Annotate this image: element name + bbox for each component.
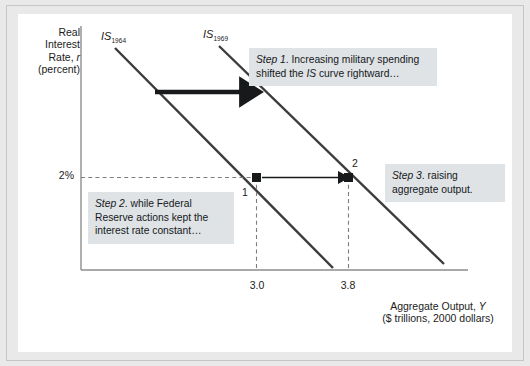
curve-label-is-1964: IS1964 bbox=[101, 30, 126, 43]
x-tick-label-3-8: 3.8 bbox=[331, 279, 365, 291]
y-axis-title-line2: Interest bbox=[45, 38, 80, 50]
curve-label-is-1969: IS1969 bbox=[203, 28, 228, 41]
x-tick-label-3-0: 3.0 bbox=[240, 279, 274, 291]
y-axis-variable-r: r bbox=[77, 51, 81, 63]
callout-step-1-text-is: IS bbox=[306, 68, 316, 79]
x-axis-title-line1: Aggregate Output, bbox=[390, 300, 479, 312]
curve-label-is-1969-subscript: 1969 bbox=[213, 35, 228, 42]
y-axis-title-line4: (percent) bbox=[38, 63, 80, 75]
callout-step-3: Step 3. raising aggregate output. bbox=[385, 164, 505, 202]
y-axis-title-line3: Rate, bbox=[48, 51, 76, 63]
x-axis-variable-y: Y bbox=[479, 300, 486, 312]
figure-root: RealInterestRate, r(percent) Aggregate O… bbox=[0, 0, 530, 366]
y-tick-label-2pct: 2% bbox=[40, 169, 74, 181]
equilibrium-point-2-label: 2 bbox=[352, 157, 358, 169]
callout-step-1-text-post: curve rightward… bbox=[316, 68, 400, 79]
callout-step-1: Step 1. Increasing military spending shi… bbox=[249, 48, 437, 86]
y-axis-title: RealInterestRate, r(percent) bbox=[18, 26, 80, 76]
callout-step-2-step: Step 2 bbox=[95, 198, 125, 209]
callout-step-3-step: Step 3 bbox=[392, 170, 422, 181]
x-axis-title-line2: ($ trillions, 2000 dollars) bbox=[382, 312, 493, 324]
curve-label-is-1964-subscript: 1964 bbox=[111, 37, 126, 44]
curve-label-is-1964-base: IS bbox=[101, 30, 111, 42]
equilibrium-point-1-label: 1 bbox=[242, 186, 248, 198]
callout-step-2: Step 2. while Federal Reserve actions ke… bbox=[88, 192, 234, 244]
x-axis-title: Aggregate Output, Y($ trillions, 2000 do… bbox=[362, 300, 514, 325]
callout-step-1-step: Step 1 bbox=[256, 54, 286, 65]
curve-label-is-1969-base: IS bbox=[203, 28, 213, 40]
y-axis-title-line1: Real bbox=[58, 26, 80, 38]
